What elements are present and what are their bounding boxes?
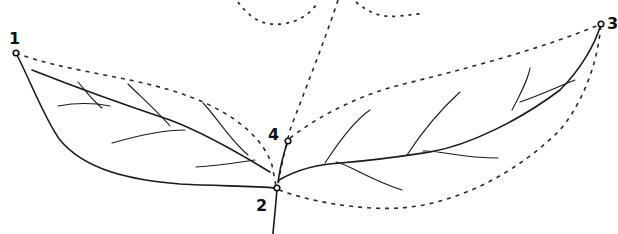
left-leaf-vein [112,130,185,143]
right-upper-dashed-curve [290,24,601,138]
point-label-3: 3 [607,16,618,32]
right-leaf-vein [336,162,402,190]
landmark-point-3 [598,21,604,27]
right-leaf-vein [325,110,370,163]
top-right-dotted-loop [356,2,420,16]
landmark-point-2 [274,185,280,191]
stem [273,188,277,234]
leaf-drawing [0,0,618,234]
left-leaf-vein [58,104,110,106]
right-leaf-midrib [279,24,601,180]
left-leaf-vein [196,160,255,167]
right-leaf-vein [407,92,460,155]
left-leaf-vein [203,103,248,155]
right-leaf-vein [423,151,498,158]
left-upper-dashed-curve [16,53,276,186]
left-leaf-vein [128,84,170,126]
left-leaf-outline [16,53,277,188]
center-dashed-guide [278,0,338,186]
leaf-diagram: 1 2 3 4 [0,0,618,234]
top-left-dotted-loop [238,2,318,24]
landmark-point-1 [13,50,19,56]
point-label-1: 1 [9,31,20,47]
right-lower-dashed-curve [279,24,601,208]
right-leaf-vein [512,68,530,110]
landmark-point-4 [285,138,291,144]
point-label-2: 2 [256,198,267,214]
point-label-4: 4 [268,127,279,143]
